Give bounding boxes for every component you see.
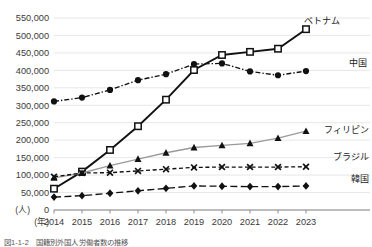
data-point [107,147,113,153]
y-axis-tick-label: 400,000 [16,66,49,76]
data-point [275,183,282,191]
x-axis-tick-label: 2018 [156,217,176,227]
y-axis-tick-label: 500,000 [16,31,49,41]
data-point [163,96,169,102]
y-axis-tick-label: 450,000 [16,48,49,58]
series-label-韓国: 韓国 [351,174,369,184]
x-axis-tick-label: 2019 [184,217,204,227]
x-axis-tick-label: 2016 [100,217,120,227]
series-label-ベトナム: ベトナム [304,16,340,26]
series-韓国 [51,182,310,201]
series-ベトナム [51,26,309,192]
data-point [163,71,169,77]
y-axis-tick-label: 300,000 [16,101,49,111]
data-point [247,68,253,74]
data-point [303,164,309,170]
y-axis-tick-label: 100,000 [16,170,49,180]
data-point [107,87,113,93]
data-point [79,94,85,100]
data-point [135,77,141,83]
data-point [191,67,197,73]
data-point [275,72,281,78]
data-point [51,98,57,104]
data-point [303,26,309,32]
series-label-ブラジル: ブラジル [333,151,369,162]
y-axis-tick-label: 200,000 [16,135,49,145]
data-point [219,182,226,190]
data-point [163,184,170,192]
x-axis-tick-label: 2017 [128,217,148,227]
data-point [107,189,114,197]
y-axis-tick-label: 0 [44,205,49,215]
data-point [191,61,197,67]
series-label-中国: 中国 [349,57,367,68]
data-point [219,60,225,66]
data-point [219,52,225,58]
y-axis-tick-label: 150,000 [16,153,49,163]
x-axis-tick-label: 2023 [296,217,316,227]
data-point [135,123,141,129]
series-line [54,186,306,197]
series-line [54,63,306,101]
data-point [51,193,58,201]
series-line [54,131,306,178]
y-axis-tick-label: 350,000 [16,83,49,93]
y-axis-tick-label: 550,000 [16,13,49,23]
data-point [247,183,254,191]
y-axis-tick-label: 50,000 [21,188,49,198]
y-axis-tick-label: 250,000 [16,118,49,128]
x-axis-tick-label: 2020 [212,217,232,227]
x-axis-tick-label: 2022 [268,217,288,227]
x-axis-label: (年) [34,216,49,227]
figure-caption: 図1‑1‑2 国籍別外国人労働者数の推移 [4,236,372,247]
x-axis-tick-label: 2015 [72,217,92,227]
series-label-フィリピン: フィリピン [324,125,369,135]
data-point [303,68,309,74]
data-point [191,182,198,190]
data-point [275,46,281,52]
data-point [135,187,142,195]
data-point [303,127,310,134]
data-point [303,182,310,190]
data-point [51,186,57,192]
series-中国 [51,60,309,104]
y-axis-unit-label: (人) [15,205,30,215]
x-axis-tick-label: 2021 [240,217,260,227]
data-point [79,192,86,200]
data-point [247,49,253,55]
